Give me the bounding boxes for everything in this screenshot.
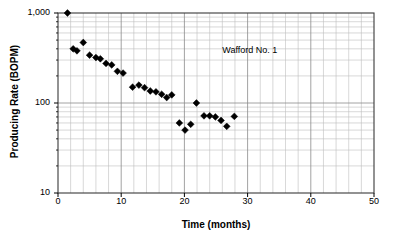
data-point-marker xyxy=(212,114,219,121)
chart-figure: Producing Rate (BOPM) Time (months) 0102… xyxy=(0,0,398,241)
x-tick-label: 50 xyxy=(359,196,389,206)
data-point-marker xyxy=(193,100,200,107)
data-series xyxy=(64,10,238,134)
y-tick-label: 100 xyxy=(14,97,50,107)
data-point-marker xyxy=(182,127,189,134)
x-tick-label: 0 xyxy=(43,196,73,206)
x-axis-title: Time (months) xyxy=(58,219,374,230)
gridlines-horizontal-minor xyxy=(58,17,374,166)
data-point-marker xyxy=(206,112,213,119)
data-point-marker xyxy=(129,84,136,91)
chart-annotation: Wafford No. 1 xyxy=(222,45,277,55)
y-tick-label: 10 xyxy=(14,187,50,197)
x-tick-label: 40 xyxy=(296,196,326,206)
data-point-marker xyxy=(176,120,183,127)
x-tick-label: 10 xyxy=(106,196,136,206)
data-point-marker xyxy=(187,121,194,128)
x-tick-label: 20 xyxy=(169,196,199,206)
axis-ticks xyxy=(54,13,374,197)
data-point-marker xyxy=(231,113,238,120)
data-point-marker xyxy=(147,88,154,95)
x-tick-label: 30 xyxy=(233,196,263,206)
data-point-marker xyxy=(86,52,93,59)
y-tick-label: 1,000 xyxy=(14,7,50,17)
data-point-marker xyxy=(64,10,71,17)
data-point-marker xyxy=(114,68,121,75)
data-point-marker xyxy=(108,62,115,69)
data-point-marker xyxy=(223,123,230,130)
data-point-marker xyxy=(120,70,127,77)
